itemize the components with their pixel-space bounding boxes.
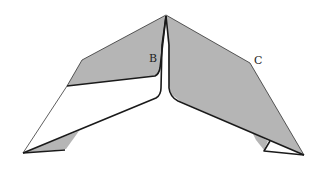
- label-b: B: [149, 52, 157, 65]
- label-c: C: [254, 54, 262, 67]
- origami-diagram: B C: [0, 0, 322, 172]
- left-white-panel: [23, 72, 161, 153]
- left-gray-flap: [67, 15, 166, 86]
- right-gray-flap: [166, 15, 304, 155]
